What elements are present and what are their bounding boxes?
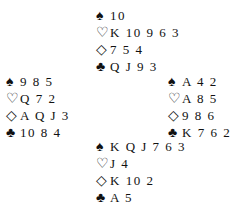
- west-spades: ♠9 8 5: [6, 73, 70, 90]
- east-hearts: ♡A 8 5: [168, 90, 231, 107]
- diamond-icon: ◇: [96, 172, 110, 189]
- spade-icon: ♠: [168, 73, 182, 90]
- diamond-icon: ◇: [168, 107, 182, 124]
- north-hearts: ♡K 10 9 6 3: [96, 24, 180, 41]
- north-hand: ♠10 ♡K 10 9 6 3 ◇7 5 4 ♣Q J 9 3: [96, 7, 180, 75]
- west-hand: ♠9 8 5 ♡Q 7 2 ◇A Q J 3 ♣10 8 4: [6, 73, 70, 141]
- south-spades: ♠K Q J 7 6 3: [96, 138, 186, 155]
- diamond-icon: ◇: [6, 107, 20, 124]
- east-spades: ♠A 4 2: [168, 73, 231, 90]
- club-icon: ♣: [6, 124, 20, 141]
- heart-icon: ♡: [96, 155, 110, 172]
- east-hand: ♠A 4 2 ♡A 8 5 ◇9 8 6 ♣K 7 6 2: [168, 73, 231, 141]
- south-clubs: ♣A 5: [96, 189, 186, 206]
- north-diamonds: ◇7 5 4: [96, 41, 180, 58]
- west-diamonds: ◇A Q J 3: [6, 107, 70, 124]
- spade-icon: ♠: [96, 7, 110, 24]
- west-clubs: ♣10 8 4: [6, 124, 70, 141]
- heart-icon: ♡: [6, 90, 20, 107]
- club-icon: ♣: [96, 58, 110, 75]
- heart-icon: ♡: [96, 24, 110, 41]
- south-diamonds: ◇K 10 2: [96, 172, 186, 189]
- heart-icon: ♡: [168, 90, 182, 107]
- south-hand: ♠K Q J 7 6 3 ♡J 4 ◇K 10 2 ♣A 5: [96, 138, 186, 206]
- west-hearts: ♡Q 7 2: [6, 90, 70, 107]
- east-diamonds: ◇9 8 6: [168, 107, 231, 124]
- north-spades: ♠10: [96, 7, 180, 24]
- spade-icon: ♠: [6, 73, 20, 90]
- south-hearts: ♡J 4: [96, 155, 186, 172]
- diamond-icon: ◇: [96, 41, 110, 58]
- spade-icon: ♠: [96, 138, 110, 155]
- club-icon: ♣: [96, 189, 110, 206]
